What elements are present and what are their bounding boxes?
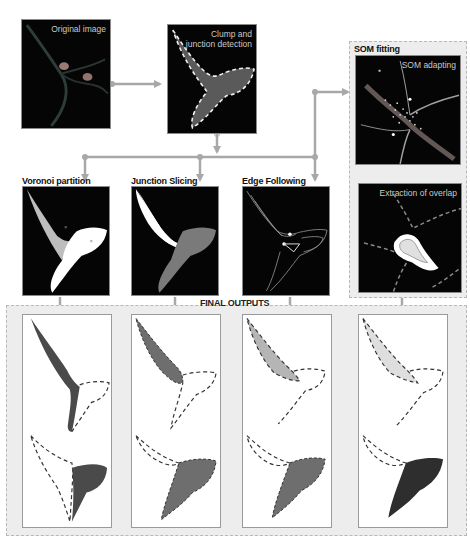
panel-junction-slicing	[131, 186, 219, 296]
panel-edge-following	[242, 186, 330, 296]
final-output-junction	[131, 314, 221, 528]
edge-trace-image	[243, 187, 329, 295]
label-final-outputs: FINAL OUTPUTS	[200, 298, 269, 308]
fluorescence-image	[22, 20, 110, 128]
junction-output-shapes	[132, 315, 220, 527]
label-som-adapting: SOM adapting	[402, 60, 456, 70]
som-output-shapes	[359, 315, 447, 527]
label-edge-following: Edge Following	[242, 176, 306, 186]
svg-text:×: ×	[89, 238, 93, 244]
final-output-som	[358, 314, 448, 528]
final-output-voronoi	[22, 314, 112, 528]
voronoi-regions-image: × ×	[23, 187, 109, 295]
label-clump-detection: Clump and junction detection	[186, 29, 252, 49]
panel-clump-detection: Clump and junction detection	[167, 24, 257, 134]
label-som-fitting: SOM fitting	[354, 44, 400, 54]
label-voronoi-partition: Voronoi partition	[22, 176, 90, 186]
som-network-image	[356, 56, 460, 164]
label-extraction-overlap: Extraction of overlap	[380, 188, 457, 198]
voronoi-output-shapes	[23, 315, 111, 527]
svg-text:×: ×	[64, 224, 68, 230]
panel-som-adapting: SOM adapting	[355, 55, 461, 165]
final-output-edge	[242, 314, 332, 528]
panel-voronoi-partition: × ×	[22, 186, 110, 296]
label-junction-slicing: Junction Slicing	[131, 176, 197, 186]
panel-original-image: Original image	[21, 19, 111, 129]
sliced-regions-image	[132, 187, 218, 295]
label-original-image: Original image	[51, 24, 106, 34]
panel-extraction-overlap: Extraction of overlap	[358, 183, 462, 293]
edge-output-shapes	[243, 315, 331, 527]
overlap-extraction-image	[359, 184, 461, 292]
cropped-caption	[0, 0, 470, 2]
